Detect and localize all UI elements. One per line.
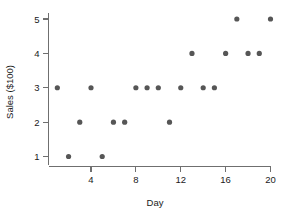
y-tick-label: 4: [34, 48, 39, 59]
data-point: [178, 85, 183, 90]
x-tick-label: 8: [133, 174, 138, 185]
data-point: [88, 85, 93, 90]
scatter-chart: 1234548121620DaySales ($100): [0, 0, 291, 213]
plot-area: 1234548121620DaySales ($100): [0, 0, 291, 213]
data-point: [223, 51, 228, 56]
data-point: [66, 154, 71, 159]
data-points-group: [55, 16, 273, 159]
y-tick-label: 2: [34, 117, 39, 128]
y-tick-label: 5: [34, 14, 39, 25]
data-point: [212, 85, 217, 90]
data-point: [257, 51, 262, 56]
data-point: [189, 51, 194, 56]
x-axis-title: Day: [147, 197, 164, 208]
y-axis-title: Sales ($100): [4, 65, 15, 119]
x-tick-label: 4: [88, 174, 93, 185]
x-tick-label: 16: [220, 174, 231, 185]
x-tick-label: 12: [175, 174, 186, 185]
data-point: [201, 85, 206, 90]
data-point: [100, 154, 105, 159]
data-point: [234, 16, 239, 21]
data-point: [245, 51, 250, 56]
y-tick-label: 3: [34, 82, 39, 93]
data-point: [111, 120, 116, 125]
data-point: [156, 85, 161, 90]
data-point: [133, 85, 138, 90]
x-tick-label: 20: [265, 174, 276, 185]
y-tick-label: 1: [34, 151, 39, 162]
data-point: [77, 120, 82, 125]
data-point: [122, 120, 127, 125]
data-point: [144, 85, 149, 90]
data-point: [55, 85, 60, 90]
data-point: [268, 16, 273, 21]
data-point: [167, 120, 172, 125]
